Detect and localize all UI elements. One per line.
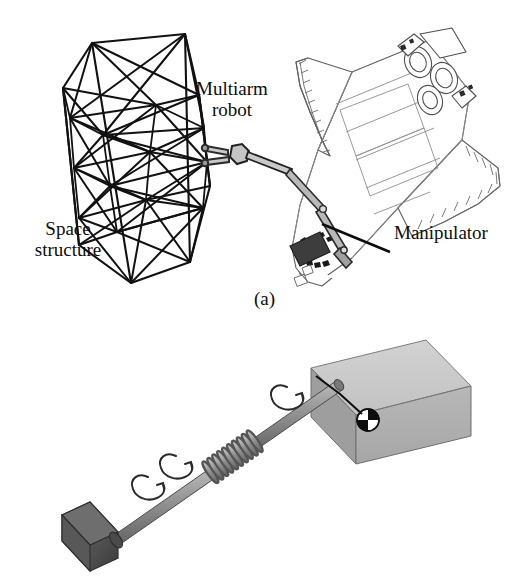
torsion-spring — [200, 429, 264, 485]
caption-panel-a: (a) — [0, 288, 529, 310]
panel-a-illustration — [0, 0, 529, 320]
robot-body — [230, 144, 249, 164]
load-mass-block — [311, 340, 471, 464]
multiarm-robot — [202, 144, 292, 175]
torsion-arrow-q2 — [160, 454, 192, 478]
label-manipulator: Manipulator — [394, 222, 488, 243]
torsion-arrow-u — [132, 475, 164, 499]
drive-motor-block — [62, 502, 125, 571]
robot-link — [246, 152, 292, 175]
panel-b: Drive motor Load massI, M k q1 q2 u J L … — [0, 320, 529, 580]
figure-container: Multiarm robot Space structure Manipulat… — [0, 0, 529, 580]
panel-b-illustration — [0, 320, 529, 580]
panel-a: Multiarm robot Space structure Manipulat… — [0, 0, 529, 320]
label-space-structure: Space structure — [8, 218, 128, 261]
label-multiarm-robot: Multiarm robot — [172, 78, 292, 121]
torsion-arrow-q1 — [271, 385, 303, 409]
